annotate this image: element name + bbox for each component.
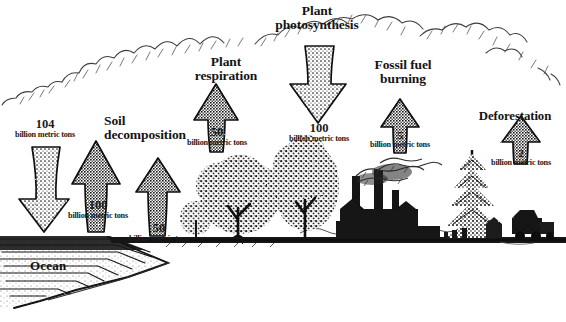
amount-unit: billion metric tons: [366, 141, 434, 149]
amount-value: 50: [182, 126, 252, 139]
amount-unit: billion metric tons: [124, 235, 194, 243]
amount-unit: billion metric tons: [284, 135, 354, 143]
amount-plant-respiration: 50 billion metric tons: [182, 126, 252, 147]
amount-deforestation: 2 billion metric tons: [487, 148, 555, 167]
label-deforestation: Deforestation: [466, 110, 564, 123]
amount-unit: billion metric tons: [9, 131, 81, 139]
amount-fossil-fuel-burning: 5 billion metric tons: [366, 130, 434, 149]
label-plant-photosynthesis: Plant photosynthesis: [262, 4, 372, 32]
amount-soil-decomposition: 50 billion metric tons: [124, 222, 194, 243]
arrow-plant-photosynthesis: [290, 46, 346, 123]
factory-smoke: [356, 158, 442, 186]
amount-ocean-release: 100 billion metric tons: [62, 199, 134, 220]
broadleaf-tree-right: [273, 135, 339, 237]
amount-plant-photosynthesis: 100 billion metric tons: [284, 122, 354, 143]
amount-unit: billion metric tons: [62, 212, 134, 220]
amount-unit: billion metric tons: [487, 159, 555, 167]
label-fossil-fuel-burning: Fossil fuel burning: [355, 58, 451, 86]
amount-value: 50: [124, 222, 194, 235]
ocean-body: [0, 236, 168, 308]
diagram-artwork: [0, 0, 566, 322]
label-ocean: Ocean: [30, 258, 66, 274]
amount-value: 100: [62, 199, 134, 212]
amount-ocean-absorption: 104 billion metric tons: [9, 118, 81, 139]
amount-unit: billion metric tons: [182, 139, 252, 147]
amount-value: 104: [9, 118, 81, 131]
carbon-cycle-diagram: Plant photosynthesis Plant respiration F…: [0, 0, 566, 322]
label-plant-respiration: Plant respiration: [178, 55, 274, 83]
amount-value: 100: [284, 122, 354, 135]
